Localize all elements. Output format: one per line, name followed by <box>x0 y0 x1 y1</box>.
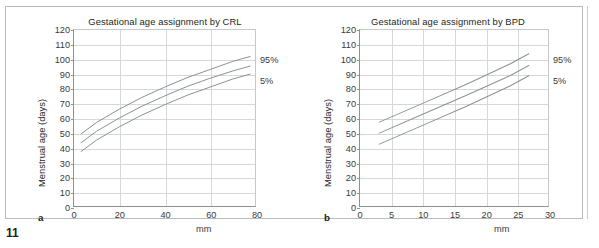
x-axis-unit-bpd: mm <box>494 224 509 234</box>
y-axis-label-bpd: Menstrual age (days) <box>322 99 333 187</box>
y-axis-tick-mark <box>71 60 74 61</box>
x-axis-tick-label: 0 <box>71 210 76 220</box>
series-label-95-bpd: 95% <box>553 55 571 65</box>
y-axis-tick-label: 60 <box>346 114 356 124</box>
y-axis-tick-label: 30 <box>60 159 70 169</box>
y-axis-tick-mark <box>71 149 74 150</box>
x-axis-tick-label: 0 <box>357 210 362 220</box>
chart-panel-bpd: Gestational age assignment by BPD 010203… <box>298 7 584 220</box>
y-axis-tick-mark <box>71 119 74 120</box>
y-axis-tick-mark <box>71 104 74 105</box>
y-axis-tick-label: 100 <box>341 55 356 65</box>
y-axis-tick-mark <box>71 164 74 165</box>
x-axis-tick-label: 10 <box>418 210 428 220</box>
figure-frame: Gestational age assignment by CRL 010203… <box>5 6 583 219</box>
chart-panel-crl: Gestational age assignment by CRL 010203… <box>6 7 298 220</box>
y-axis-tick-label: 70 <box>346 99 356 109</box>
y-axis-tick-mark <box>357 193 360 194</box>
y-axis-tick-label: 50 <box>346 129 356 139</box>
y-axis-tick-label: 0 <box>351 203 356 213</box>
y-axis-label-crl: Menstrual age (days) <box>36 99 47 187</box>
x-axis-tick-label: 40 <box>160 210 170 220</box>
y-axis-tick-mark <box>357 60 360 61</box>
series-label-95-crl: 95% <box>260 55 278 65</box>
figure-frame-edge <box>587 6 593 219</box>
plot-area-crl: 0102030405060708090100110120020406080 <box>73 29 256 207</box>
x-axis-tick-label: 20 <box>115 210 125 220</box>
curve-5-crl <box>81 74 251 152</box>
y-axis-tick-label: 100 <box>55 55 70 65</box>
y-axis-tick-mark <box>71 178 74 179</box>
y-axis-tick-mark <box>71 89 74 90</box>
x-axis-unit-crl: mm <box>196 224 211 234</box>
y-axis-tick-label: 40 <box>346 144 356 154</box>
y-axis-tick-mark <box>357 45 360 46</box>
y-axis-tick-label: 120 <box>55 25 70 35</box>
page-number: 11 <box>6 226 19 240</box>
y-axis-tick-mark <box>71 134 74 135</box>
y-axis-tick-mark <box>357 104 360 105</box>
y-axis-tick-mark <box>71 193 74 194</box>
curve-svg-crl <box>74 30 255 206</box>
y-axis-tick-label: 10 <box>346 188 356 198</box>
y-axis-tick-label: 80 <box>60 84 70 94</box>
y-axis-tick-label: 10 <box>60 188 70 198</box>
y-axis-tick-label: 50 <box>60 129 70 139</box>
x-axis-tick-label: 25 <box>513 210 523 220</box>
y-axis-tick-label: 80 <box>346 84 356 94</box>
x-axis-tick-label: 60 <box>206 210 216 220</box>
y-axis-tick-mark <box>357 149 360 150</box>
figure-page: Gestational age assignment by CRL 010203… <box>0 0 599 248</box>
y-axis-tick-label: 0 <box>65 203 70 213</box>
x-axis-tick-label: 30 <box>545 210 555 220</box>
y-axis-tick-label: 110 <box>55 40 70 50</box>
curves-bpd <box>360 30 548 206</box>
panel-letter-b: b <box>324 212 330 223</box>
y-axis-tick-mark <box>71 75 74 76</box>
y-axis-tick-label: 20 <box>346 173 356 183</box>
y-axis-tick-mark <box>357 119 360 120</box>
y-axis-tick-label: 40 <box>60 144 70 154</box>
y-axis-tick-mark <box>357 178 360 179</box>
y-axis-tick-mark <box>357 164 360 165</box>
y-axis-tick-label: 90 <box>346 70 356 80</box>
curve-5-bpd <box>379 75 529 144</box>
y-axis-tick-mark <box>357 30 360 31</box>
y-axis-tick-mark <box>357 208 360 209</box>
curve-svg-bpd <box>360 30 548 206</box>
y-axis-tick-label: 120 <box>341 25 356 35</box>
x-axis-tick-label: 20 <box>482 210 492 220</box>
x-axis-tick-label: 80 <box>252 210 262 220</box>
y-axis-tick-label: 110 <box>341 40 356 50</box>
y-axis-tick-mark <box>71 30 74 31</box>
y-axis-tick-label: 30 <box>346 159 356 169</box>
y-axis-tick-mark <box>71 45 74 46</box>
curves-crl <box>74 30 255 206</box>
chart-title-crl: Gestational age assignment by CRL <box>6 16 298 27</box>
y-axis-tick-label: 90 <box>60 70 70 80</box>
x-axis-tick-label: 5 <box>389 210 394 220</box>
y-axis-tick-label: 20 <box>60 173 70 183</box>
panel-letter-a: a <box>38 212 43 223</box>
y-axis-tick-label: 70 <box>60 99 70 109</box>
y-axis-tick-mark <box>357 89 360 90</box>
y-axis-tick-label: 60 <box>60 114 70 124</box>
y-axis-tick-mark <box>357 134 360 135</box>
plot-area-bpd: 0102030405060708090100110120051015202530 <box>359 29 549 207</box>
series-label-5-bpd: 5% <box>553 76 566 86</box>
x-axis-tick-label: 15 <box>450 210 460 220</box>
curve-50-bpd <box>379 65 529 133</box>
y-axis-tick-mark <box>71 208 74 209</box>
series-label-5-crl: 5% <box>260 76 273 86</box>
y-axis-tick-mark <box>357 75 360 76</box>
